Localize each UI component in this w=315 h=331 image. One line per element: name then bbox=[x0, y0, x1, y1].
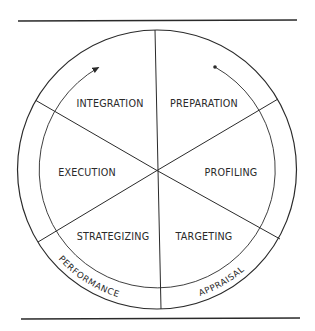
segment-label-execution: EXECUTION bbox=[58, 167, 116, 178]
cycle-diagram: INTEGRATION PREPARATION PROFILING TARGET… bbox=[0, 0, 315, 331]
spoke-upper-right bbox=[157, 99, 278, 171]
top-rule bbox=[18, 20, 297, 21]
ring-label-performance-path: PERFORMANCE bbox=[57, 254, 121, 300]
spoke-upper-left bbox=[36, 101, 157, 171]
segment-label-targeting: TARGETING bbox=[175, 231, 233, 242]
segment-label-preparation: PREPARATION bbox=[170, 98, 238, 109]
bottom-rule bbox=[21, 318, 300, 319]
ring-label-performance: PERFORMANCE bbox=[57, 254, 121, 300]
spoke-lower-right bbox=[157, 171, 280, 240]
segment-label-strategizing: STRATEGIZING bbox=[77, 231, 150, 242]
segment-label-integration: INTEGRATION bbox=[76, 98, 143, 109]
segment-label-profiling: PROFILING bbox=[205, 167, 258, 178]
cycle-start-dot-icon bbox=[213, 65, 217, 69]
